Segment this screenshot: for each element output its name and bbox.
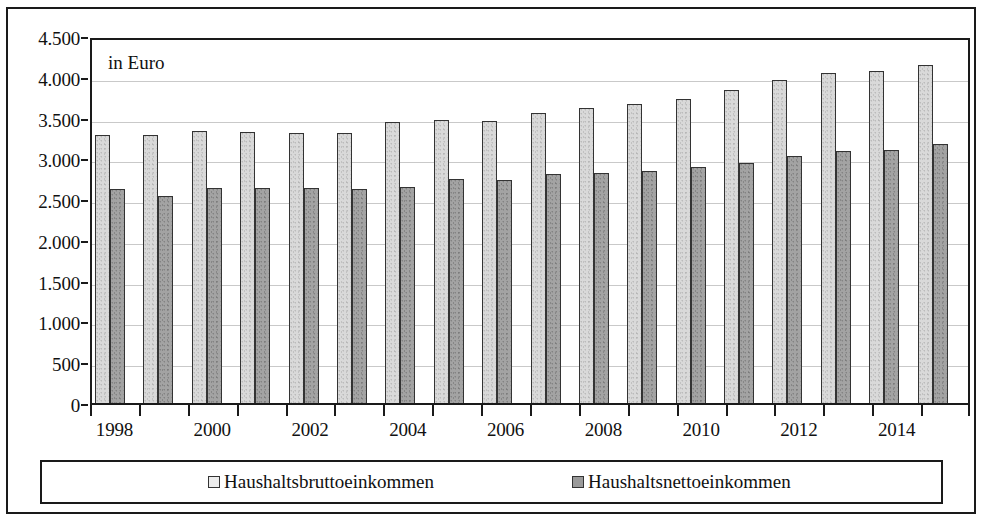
bar-netto-2010 [691, 167, 706, 403]
y-tick-label: 2.500 [38, 192, 80, 211]
bar-brutto-2006 [482, 121, 497, 403]
bars-layer [92, 40, 968, 403]
bar-group-2010 [676, 40, 724, 403]
chart-figure: 05001.0001.5002.0002.5003.0003.5004.0004… [0, 0, 982, 521]
x-tick-mark [872, 405, 874, 416]
x-tick-mark [628, 405, 630, 416]
in-euro-annotation: in Euro [108, 52, 164, 74]
y-axis: 05001.0001.5002.0002.5003.0003.5004.0004… [16, 38, 88, 405]
x-tick-mark [237, 405, 239, 416]
bar-netto-2015 [933, 144, 948, 403]
bar-brutto-2008 [579, 108, 594, 403]
plot-area: in Euro [90, 38, 970, 405]
bar-netto-2001 [255, 188, 270, 403]
x-tick-mark [188, 405, 190, 416]
bar-brutto-2010 [676, 99, 691, 403]
x-tick-label: 2004 [389, 419, 426, 441]
bar-netto-2005 [449, 179, 464, 403]
bar-group-2009 [627, 40, 675, 403]
y-tick-label: 0 [71, 396, 80, 415]
bar-group-2012 [772, 40, 820, 403]
x-tick-mark [823, 405, 825, 416]
x-tick-mark [774, 405, 776, 416]
y-tick-mark [81, 241, 88, 243]
bar-brutto-2013 [821, 73, 836, 403]
legend-swatch-icon [208, 476, 220, 488]
x-tick-mark [968, 405, 970, 416]
bar-brutto-2011 [724, 90, 739, 403]
bar-group-2004 [385, 40, 433, 403]
bar-group-1999 [143, 40, 191, 403]
legend-swatch-icon [572, 476, 584, 488]
bar-netto-2006 [497, 180, 512, 403]
x-tick-label: 2010 [683, 419, 720, 441]
bar-group-2011 [724, 40, 772, 403]
y-tick-mark [81, 159, 88, 161]
y-tick-label: 3.000 [38, 151, 80, 170]
x-tick-label: 2008 [585, 419, 622, 441]
bar-netto-2004 [400, 187, 415, 403]
bar-brutto-2009 [627, 104, 642, 403]
x-tick-label: 2014 [878, 419, 915, 441]
bar-netto-2012 [787, 156, 802, 403]
y-tick-label: 4.500 [38, 29, 80, 48]
bar-brutto-2007 [531, 113, 546, 403]
bar-netto-1999 [158, 196, 173, 403]
bar-group-2001 [240, 40, 288, 403]
x-tick-mark [726, 405, 728, 416]
x-tick-label: 2012 [780, 419, 817, 441]
x-tick-mark [139, 405, 141, 416]
bar-netto-2000 [207, 188, 222, 403]
bar-brutto-2002 [289, 133, 304, 403]
x-tick-mark [579, 405, 581, 416]
bar-netto-1998 [110, 189, 125, 403]
bar-group-2008 [579, 40, 627, 403]
x-tick-label: 2006 [487, 419, 524, 441]
bar-brutto-2003 [337, 133, 352, 403]
bar-netto-2009 [642, 171, 657, 403]
x-axis: 199820002002200420062008201020122014 [90, 405, 970, 455]
x-tick-mark [90, 405, 92, 416]
y-tick-label: 1.500 [38, 273, 80, 292]
bar-netto-2013 [836, 151, 851, 403]
x-tick-mark [334, 405, 336, 416]
bar-group-2006 [482, 40, 530, 403]
plot-wrapper: 05001.0001.5002.0002.5003.0003.5004.0004… [0, 0, 982, 460]
y-tick-mark [81, 363, 88, 365]
y-tick-label: 3.500 [38, 110, 80, 129]
bar-group-2002 [289, 40, 337, 403]
legend-entry-netto: Haushaltsnettoeinkommen [572, 471, 791, 493]
bar-brutto-2015 [918, 65, 933, 403]
x-tick-mark [530, 405, 532, 416]
bar-brutto-1999 [143, 135, 158, 403]
x-tick-mark [481, 405, 483, 416]
bar-netto-2011 [739, 163, 754, 403]
x-tick-mark [432, 405, 434, 416]
bar-brutto-2014 [869, 71, 884, 403]
bar-group-2007 [531, 40, 579, 403]
bar-netto-2014 [884, 150, 899, 403]
bar-group-2013 [821, 40, 869, 403]
x-tick-label: 2002 [291, 419, 328, 441]
bar-netto-2002 [304, 188, 319, 403]
x-tick-mark [286, 405, 288, 416]
x-tick-mark [383, 405, 385, 416]
x-tick-label: 2000 [194, 419, 231, 441]
y-tick-mark [81, 200, 88, 202]
bar-brutto-2012 [772, 80, 787, 403]
bar-group-2014 [869, 40, 917, 403]
legend-label: Haushaltsnettoeinkommen [588, 471, 791, 493]
y-tick-mark [81, 282, 88, 284]
bar-netto-2003 [352, 189, 367, 403]
y-tick-label: 2.000 [38, 232, 80, 251]
y-tick-mark [81, 119, 88, 121]
bar-brutto-2005 [434, 120, 449, 403]
bar-group-2000 [192, 40, 240, 403]
bar-group-1998 [95, 40, 143, 403]
bar-group-2003 [337, 40, 385, 403]
x-tick-label: 1998 [96, 419, 133, 441]
legend-entry-brutto: Haushaltsbruttoeinkommen [208, 471, 434, 493]
bar-brutto-1998 [95, 135, 110, 403]
y-tick-mark [81, 404, 88, 406]
y-tick-mark [81, 37, 88, 39]
